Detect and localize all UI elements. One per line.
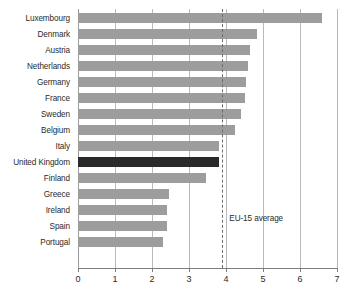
- category-label: Greece: [0, 187, 74, 203]
- bar-row: [78, 107, 337, 123]
- bar-row: [78, 187, 337, 203]
- x-tick-label: 7: [334, 274, 339, 284]
- x-tick-label: 1: [112, 274, 117, 284]
- category-axis-labels: LuxembourgDenmarkAustriaNetherlandsGerma…: [0, 11, 74, 251]
- x-tick-label: 0: [75, 274, 80, 284]
- bar-row: [78, 123, 337, 139]
- bar: [78, 77, 246, 87]
- x-tick-mark: [300, 268, 301, 272]
- bar: [78, 221, 167, 231]
- bar: [78, 93, 245, 103]
- x-tick-label: 4: [223, 274, 228, 284]
- x-tick-mark: [152, 268, 153, 272]
- category-label: Portugal: [0, 235, 74, 251]
- bar-row: [78, 75, 337, 91]
- category-label: Germany: [0, 75, 74, 91]
- category-label: Belgium: [0, 123, 74, 139]
- bar: [78, 173, 206, 183]
- bar-row: [78, 91, 337, 107]
- x-tick-label: 5: [260, 274, 265, 284]
- x-tick-label: 6: [297, 274, 302, 284]
- bar: [78, 29, 257, 39]
- bar: [78, 237, 163, 247]
- category-label: Luxembourg: [0, 11, 74, 27]
- bar: [78, 13, 322, 23]
- bar: [78, 141, 219, 151]
- eu-15-average-line: [222, 9, 223, 268]
- category-label: Netherlands: [0, 59, 74, 75]
- bar-row: [78, 11, 337, 27]
- category-label: France: [0, 91, 74, 107]
- bar: [78, 45, 250, 55]
- x-tick-label: 2: [149, 274, 154, 284]
- bar-highlighted: [78, 157, 219, 167]
- x-axis-line: [78, 268, 338, 269]
- x-tick-mark: [226, 268, 227, 272]
- x-tick-mark: [189, 268, 190, 272]
- bar-row: [78, 219, 337, 235]
- bar-row: [78, 235, 337, 251]
- bars-group: [78, 11, 337, 251]
- bar-chart: LuxembourgDenmarkAustriaNetherlandsGerma…: [0, 0, 347, 293]
- category-label: Finland: [0, 171, 74, 187]
- category-label: Denmark: [0, 27, 74, 43]
- x-tick-mark: [78, 268, 79, 272]
- category-label: Italy: [0, 139, 74, 155]
- bar-row: [78, 171, 337, 187]
- bar: [78, 109, 241, 119]
- bar: [78, 125, 235, 135]
- bar-row: [78, 27, 337, 43]
- bar-row: [78, 59, 337, 75]
- x-tick-mark: [263, 268, 264, 272]
- bar: [78, 189, 169, 199]
- bar-row: [78, 43, 337, 59]
- category-label: United Kingdom: [0, 155, 74, 171]
- category-label: Sweden: [0, 107, 74, 123]
- x-tick-label: 3: [186, 274, 191, 284]
- bar-row: [78, 155, 337, 171]
- x-tick-mark: [115, 268, 116, 272]
- bar: [78, 205, 167, 215]
- bar-row: [78, 203, 337, 219]
- eu-15-average-label: EU-15 average: [229, 214, 283, 223]
- category-label: Ireland: [0, 203, 74, 219]
- x-tick-mark: [337, 268, 338, 272]
- category-label: Spain: [0, 219, 74, 235]
- category-label: Austria: [0, 43, 74, 59]
- gridline: [337, 9, 338, 268]
- plot-area: [78, 9, 337, 268]
- bar-row: [78, 139, 337, 155]
